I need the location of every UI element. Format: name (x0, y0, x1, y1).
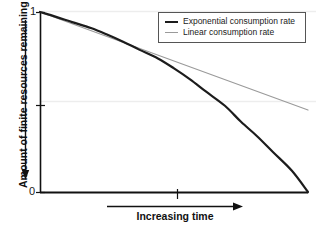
legend-swatch-exponential-icon (165, 21, 178, 23)
y-axis-title: Amount of finite resources remaining (17, 8, 29, 188)
legend-swatch-linear-icon (165, 32, 178, 33)
y-axis-tick-label-top: 1 (30, 6, 36, 17)
y-axis-tick-label-bottom: 0 (29, 186, 35, 197)
chart-legend: Exponential consumption rate Linear cons… (158, 12, 306, 43)
legend-item-linear: Linear consumption rate (163, 27, 301, 38)
legend-item-exponential: Exponential consumption rate (163, 16, 301, 27)
legend-label-exponential: Exponential consumption rate (183, 16, 295, 27)
legend-label-linear: Linear consumption rate (183, 27, 274, 38)
x-axis-title: Increasing time (90, 210, 260, 222)
chart-figure: 1 0 Amount of finite resources remaining… (0, 0, 320, 226)
